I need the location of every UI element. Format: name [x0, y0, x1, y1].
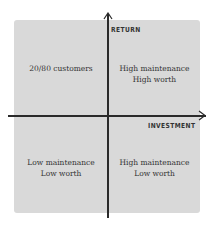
- quadrant-label: High maintenance: [109, 157, 200, 168]
- quadrant-top-left: 20/80 customers: [14, 63, 108, 74]
- quadrant-label: High worth: [109, 74, 200, 85]
- quadrant-label: Low maintenance: [14, 157, 108, 168]
- arrow-right-icon: [198, 110, 206, 121]
- return-axis-label: RETURN: [111, 26, 141, 34]
- quadrant-label: Low worth: [14, 168, 108, 179]
- investment-axis: [8, 115, 206, 117]
- quadrant-top-right: High maintenance High worth: [109, 63, 200, 85]
- quadrant-bottom-left: Low maintenance Low worth: [14, 157, 108, 179]
- arrow-up-icon: [103, 12, 113, 20]
- quadrant-label: 20/80 customers: [14, 63, 108, 74]
- quadrant-label: Low worth: [109, 168, 200, 179]
- investment-axis-label: INVESTMENT: [148, 122, 195, 130]
- quadrant-label: High maintenance: [109, 63, 200, 74]
- quadrant-bottom-right: High maintenance Low worth: [109, 157, 200, 179]
